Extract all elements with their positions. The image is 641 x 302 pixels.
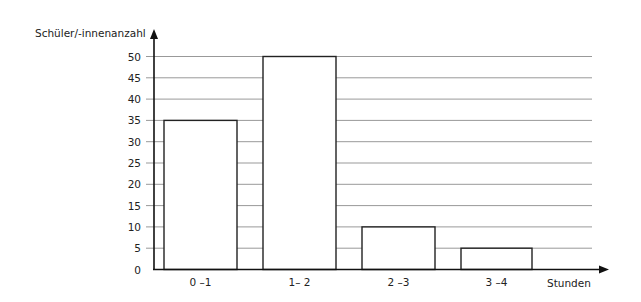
y-tick-label: 30 <box>128 136 141 148</box>
y-tick-label: 35 <box>128 114 141 126</box>
x-category-label: 1– 2 <box>289 276 311 288</box>
y-tick-label: 10 <box>128 221 141 233</box>
x-category-labels: 0 –11– 22 –33 –4 <box>190 276 508 288</box>
y-axis-label: Schüler/-innenanzahl <box>35 27 146 39</box>
bar <box>461 248 532 269</box>
y-tick-label: 0 <box>134 264 141 276</box>
bar <box>263 57 336 270</box>
y-tick-labels: 05101520253035404550 <box>128 51 141 276</box>
y-tick-label: 40 <box>128 93 141 105</box>
y-axis-arrow-icon <box>150 29 158 39</box>
x-axis-arrow-icon <box>599 266 609 274</box>
y-tick-label: 50 <box>128 51 141 63</box>
y-tick-label: 15 <box>128 200 141 212</box>
y-tick-label: 45 <box>128 72 141 84</box>
bar <box>362 227 435 270</box>
histogram-chart: 05101520253035404550 0 –11– 22 –33 –4 Sc… <box>0 0 641 302</box>
x-category-label: 3 –4 <box>486 276 508 288</box>
y-tick-label: 25 <box>128 157 141 169</box>
x-axis-label: Stunden <box>547 277 591 289</box>
x-category-label: 2 –3 <box>388 276 410 288</box>
bar <box>164 120 237 269</box>
y-tick-label: 5 <box>134 242 141 254</box>
y-tick-label: 20 <box>128 178 141 190</box>
x-category-label: 0 –1 <box>190 276 212 288</box>
